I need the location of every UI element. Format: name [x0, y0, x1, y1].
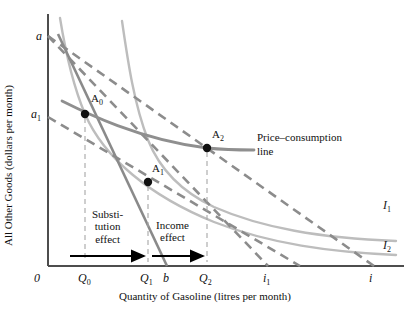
x-tick-q1: Q1 [140, 272, 153, 288]
y-tick-a: a [36, 30, 42, 43]
curve-label-i1: I1 [383, 199, 391, 215]
price-consumption-line2: line [257, 145, 342, 159]
substitution-effect-line2: tution [92, 220, 123, 232]
y-axis-title: All Other Goods (dollars per month) [2, 232, 14, 246]
point-label-a2: A2 [212, 128, 224, 144]
x-tick-q2: Q2 [199, 272, 212, 288]
point-a0 [81, 110, 89, 118]
price-consumption-line1: Price–consumption [257, 131, 342, 145]
income-effect-line2: effect [156, 231, 189, 243]
substitution-effect-line3: effect [92, 233, 123, 245]
substitution-effect-label: Substi- tution effect [92, 208, 123, 245]
x-tick-i1: i1 [263, 272, 270, 288]
x-tick-b: b [163, 272, 169, 285]
substitution-effect-line1: Substi- [92, 208, 123, 220]
price-consumption-label: Price–consumption line [257, 131, 342, 159]
point-a1 [144, 178, 152, 186]
x-tick-q0: Q0 [78, 272, 91, 288]
x-tick-zero: 0 [34, 272, 40, 285]
income-effect-label: Income effect [156, 219, 189, 244]
point-a2 [203, 144, 211, 152]
curve-label-i2: I2 [383, 239, 391, 255]
x-tick-i: i [369, 272, 372, 285]
plot-canvas [0, 0, 412, 314]
y-tick-a1: a1 [31, 108, 41, 124]
income-effect-line1: Income [156, 219, 189, 231]
point-label-a0: A0 [91, 92, 103, 108]
x-axis-title: Quantity of Gasoline (litres per month) [119, 290, 291, 302]
economics-diagram: All Other Goods (dollars per month) Quan… [0, 0, 412, 314]
point-label-a1: A1 [152, 162, 164, 178]
